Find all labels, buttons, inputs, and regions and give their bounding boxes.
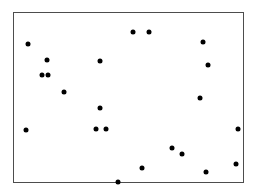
data-point xyxy=(198,96,203,101)
data-point xyxy=(26,42,31,47)
scatter-plot-figure xyxy=(0,0,256,196)
data-point xyxy=(147,30,152,35)
data-point xyxy=(131,30,136,35)
data-point xyxy=(24,128,29,133)
plot-frame-border xyxy=(13,12,244,183)
data-point xyxy=(116,180,121,185)
data-point xyxy=(236,127,241,132)
data-point xyxy=(140,166,145,171)
data-point xyxy=(180,152,185,157)
data-point xyxy=(98,106,103,111)
data-point xyxy=(62,90,67,95)
data-point xyxy=(206,63,211,68)
data-point xyxy=(98,59,103,64)
data-point xyxy=(201,40,206,45)
data-point xyxy=(234,162,239,167)
data-point xyxy=(104,127,109,132)
data-point xyxy=(40,73,45,78)
data-point xyxy=(170,146,175,151)
data-point xyxy=(45,58,50,63)
plot-area xyxy=(14,13,243,182)
data-point xyxy=(46,73,51,78)
data-point xyxy=(94,127,99,132)
data-point xyxy=(204,170,209,175)
